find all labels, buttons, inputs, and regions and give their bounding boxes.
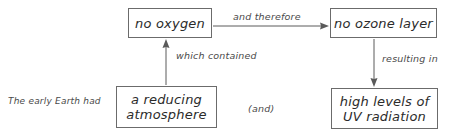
edge-reducing-atmosphere-to-no-oxygen <box>163 39 170 85</box>
node-no-ozone-layer: no ozone layer <box>330 8 437 38</box>
edge-label-resulting-in: resulting in <box>382 53 438 64</box>
node-no-oxygen: no oxygen <box>128 8 212 38</box>
edge-no-oxygen-to-no-ozone-layer <box>213 23 329 30</box>
edge-label-which-contained: which contained <box>176 50 257 61</box>
label-early-earth-had: The early Earth had <box>8 96 101 107</box>
node-uv-radiation: high levels of UV radiation <box>331 88 438 129</box>
flowchart-diagram: no oxygen no ozone layer a reducing atmo… <box>0 0 449 133</box>
edge-label-and-therefore: and therefore <box>233 11 301 22</box>
label-and-connector: (and) <box>248 103 274 114</box>
edge-no-ozone-layer-to-uv-radiation <box>371 39 378 87</box>
node-reducing-atmosphere: a reducing atmosphere <box>116 86 217 128</box>
